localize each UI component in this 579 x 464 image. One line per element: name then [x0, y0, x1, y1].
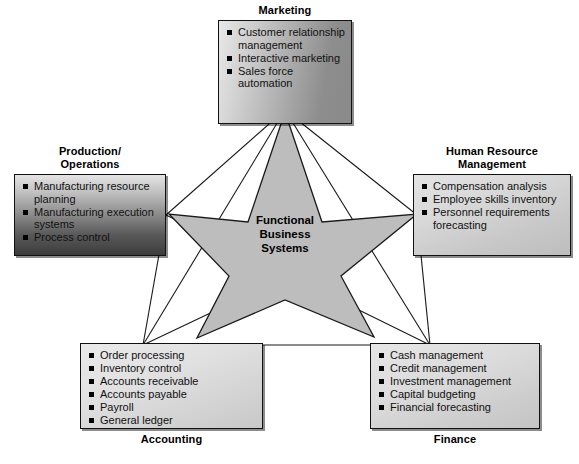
node-production-operations-box[interactable]: Manufacturing resource planning Manufact… — [14, 174, 166, 256]
node-accounting-title: Accounting — [80, 433, 263, 446]
list-item: Inventory control — [89, 362, 258, 375]
list-item: Payroll — [89, 401, 258, 414]
node-marketing-title: Marketing — [218, 4, 352, 17]
list-item: Compensation analysis — [422, 180, 566, 193]
list-item: Accounts payable — [89, 388, 258, 401]
list-item: Employee skills inventory — [422, 193, 566, 206]
list-item: Investment management — [379, 375, 535, 388]
list-item: Personnel requirements forecasting — [422, 206, 566, 231]
list-item: Process control — [23, 231, 161, 244]
list-item: Capital budgeting — [379, 388, 535, 401]
list-item: Order processing — [89, 349, 258, 362]
node-human-resource-management[interactable]: Human Resource Management Compensation a… — [413, 145, 571, 256]
node-accounting-box[interactable]: Order processing Inventory control Accou… — [80, 343, 263, 429]
node-human-resource-management-title: Human Resource Management — [413, 145, 571, 171]
list-item: Credit management — [379, 362, 535, 375]
list-item: Customer relationship management — [227, 26, 347, 51]
center-label: Functional Business Systems — [229, 213, 341, 255]
list-item: Manufacturing execution systems — [23, 206, 161, 231]
list-item: General ledger — [89, 414, 258, 427]
node-marketing-box[interactable]: Customer relationship management Interac… — [218, 20, 352, 124]
functional-business-systems-diagram: Functional Business Systems Marketing Cu… — [0, 0, 579, 464]
list-item: Financial forecasting — [379, 401, 535, 414]
node-human-resource-management-box[interactable]: Compensation analysis Employee skills in… — [413, 174, 571, 256]
list-item: Accounts receivable — [89, 375, 258, 388]
list-item: Sales force automation — [227, 65, 347, 90]
list-item: Interactive marketing — [227, 52, 347, 65]
list-item: Cash management — [379, 349, 535, 362]
node-finance[interactable]: Cash management Credit management Invest… — [370, 343, 540, 446]
node-production-operations-title: Production/ Operations — [14, 145, 166, 171]
list-item: Manufacturing resource planning — [23, 180, 161, 205]
node-finance-box[interactable]: Cash management Credit management Invest… — [370, 343, 540, 429]
node-accounting[interactable]: Order processing Inventory control Accou… — [80, 343, 263, 446]
node-marketing[interactable]: Marketing Customer relationship manageme… — [218, 4, 352, 124]
node-production-operations[interactable]: Production/ Operations Manufacturing res… — [14, 145, 166, 256]
node-finance-title: Finance — [370, 433, 540, 446]
